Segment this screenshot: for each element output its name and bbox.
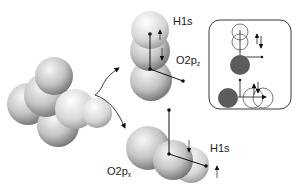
label-bottom-h1s: H1s <box>210 143 230 154</box>
label-top-o2pz: O2pz <box>176 55 200 67</box>
diagram-canvas <box>0 0 296 194</box>
label-bottom-o2px: O2px <box>107 166 131 178</box>
molecule-cluster <box>7 57 112 147</box>
inset-schematic <box>209 20 291 109</box>
bottom-h2o <box>126 108 217 183</box>
label-top-h1s: H1s <box>173 16 193 27</box>
